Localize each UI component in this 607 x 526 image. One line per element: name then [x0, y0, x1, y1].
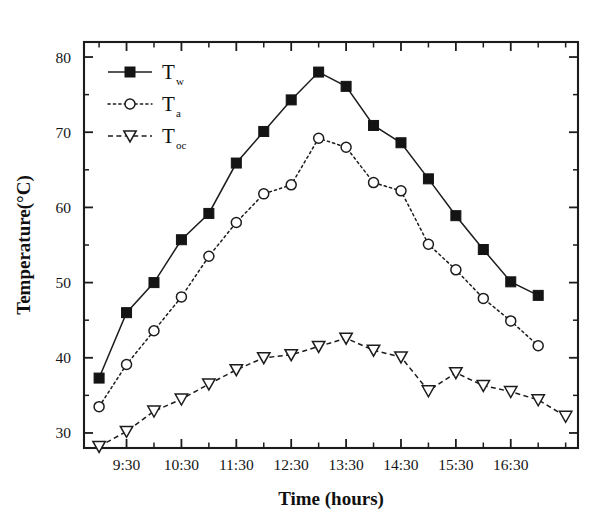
marker-filled-square [286, 95, 296, 105]
chart-figure: 304050607080 9:3010:3011:3012:3013:3014:… [0, 0, 607, 526]
series-line-Toc [99, 338, 566, 446]
marker-open-triangle-down [120, 426, 132, 437]
legend-entry-Toc[interactable]: Toc [108, 124, 187, 151]
x-tick-label: 15:30 [438, 456, 474, 473]
y-tick-label: 80 [56, 49, 72, 66]
marker-open-triangle-down [450, 368, 462, 379]
legend-label-Tw: T [162, 60, 175, 84]
marker-open-circle [369, 178, 379, 188]
x-tick-label: 13:30 [328, 456, 364, 473]
series-line-Tw [99, 72, 538, 378]
marker-filled-square [451, 211, 461, 221]
marker-filled-square [396, 138, 406, 148]
marker-open-circle [451, 265, 461, 275]
marker-open-triangle-down [175, 394, 187, 405]
y-axis-ticks [84, 57, 578, 433]
legend-entry-Tw[interactable]: Tw [108, 60, 184, 87]
marker-open-triangle-down [532, 395, 544, 406]
plot-frame [84, 42, 578, 448]
marker-open-circle [506, 316, 516, 326]
marker-open-circle [94, 402, 104, 412]
legend-subscript-Ta: a [176, 107, 181, 119]
marker-filled-square [94, 373, 104, 383]
x-axis-title: Time (hours) [278, 488, 384, 510]
marker-filled-square [533, 290, 543, 300]
series-Ta [94, 133, 543, 411]
y-axis-tick-labels: 304050607080 [56, 49, 72, 442]
legend-subscript-Tw: w [176, 75, 184, 87]
legend-label-Ta: T [162, 92, 175, 116]
marker-filled-square [122, 308, 132, 318]
marker-open-triangle-down [505, 387, 517, 398]
y-tick-label: 50 [56, 274, 72, 291]
x-tick-label: 16:30 [493, 456, 529, 473]
marker-open-circle [286, 180, 296, 190]
series-Toc [93, 333, 572, 452]
marker-open-triangle-down [559, 411, 571, 422]
marker-filled-square [314, 67, 324, 77]
legend-entry-Ta[interactable]: Ta [108, 92, 181, 119]
marker-filled-square [125, 67, 135, 77]
marker-filled-square [231, 158, 241, 168]
legend-subscript-Toc: oc [176, 139, 187, 151]
marker-open-triangle-down [203, 379, 215, 390]
y-tick-label: 30 [56, 424, 72, 441]
x-tick-label: 10:30 [164, 456, 200, 473]
marker-open-circle [478, 293, 488, 303]
marker-open-circle [533, 341, 543, 351]
y-tick-label: 40 [56, 349, 72, 366]
chart-svg: 304050607080 9:3010:3011:3012:3013:3014:… [0, 0, 607, 526]
marker-open-triangle-down [230, 365, 242, 376]
marker-open-circle [314, 133, 324, 143]
marker-open-circle [149, 326, 159, 336]
x-tick-label: 14:30 [383, 456, 419, 473]
marker-open-circle [423, 239, 433, 249]
marker-open-triangle-down [340, 333, 352, 344]
marker-open-circle [341, 142, 351, 152]
marker-open-circle [259, 189, 269, 199]
y-tick-label: 60 [56, 199, 72, 216]
marker-filled-square [341, 81, 351, 91]
marker-open-circle [396, 186, 406, 196]
marker-open-triangle-down [422, 386, 434, 397]
x-tick-label: 12:30 [274, 456, 310, 473]
marker-open-triangle-down [93, 441, 105, 452]
marker-open-triangle-down [312, 341, 324, 352]
marker-open-triangle-down [258, 353, 270, 364]
marker-filled-square [176, 235, 186, 245]
marker-filled-square [204, 208, 214, 218]
marker-open-triangle-down [148, 406, 160, 417]
marker-open-circle [204, 251, 214, 261]
marker-filled-square [149, 278, 159, 288]
marker-open-circle [122, 360, 132, 370]
y-axis-title: Temperature(°C) [13, 175, 35, 315]
x-tick-label: 11:30 [219, 456, 254, 473]
marker-open-circle [176, 292, 186, 302]
y-tick-label: 70 [56, 124, 72, 141]
marker-filled-square [369, 120, 379, 130]
marker-filled-square [259, 126, 269, 136]
marker-filled-square [423, 174, 433, 184]
x-axis-tick-labels: 9:3010:3011:3012:3013:3014:3015:3016:30 [113, 456, 529, 473]
marker-filled-square [478, 245, 488, 255]
x-tick-label: 9:30 [113, 456, 141, 473]
marker-filled-square [506, 277, 516, 287]
legend-label-Toc: T [162, 124, 175, 148]
chart-legend: TwTaToc [108, 60, 187, 151]
marker-open-circle [125, 99, 135, 109]
marker-open-circle [231, 217, 241, 227]
series-line-Ta [99, 138, 538, 406]
